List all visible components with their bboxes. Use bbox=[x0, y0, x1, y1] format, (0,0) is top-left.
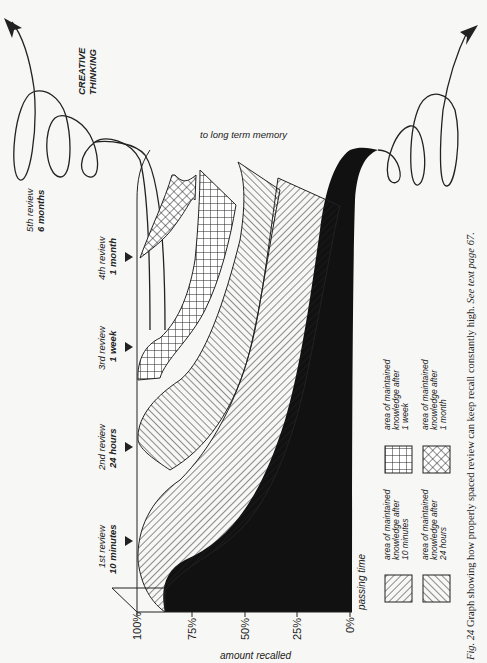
review-5-line2: 6 months bbox=[35, 190, 46, 232]
review-2-line2: 24 hours bbox=[107, 428, 118, 469]
creative-label-line2: THINKING bbox=[87, 48, 98, 95]
triangle-marker-icon bbox=[125, 442, 133, 452]
legend-10m-line3: 10 minutes bbox=[400, 518, 410, 560]
review-3-line1: 3rd review bbox=[96, 325, 107, 370]
triangle-marker-icon bbox=[125, 252, 133, 262]
spaced-review-diagram: 100% 75% 50% 25% 0% amount recalled pass… bbox=[0, 0, 487, 663]
review-1-line2: 10 minutes bbox=[107, 524, 118, 574]
caption-ref: See text page 67. bbox=[465, 232, 476, 303]
caption-label: Fig. 24 bbox=[465, 629, 476, 661]
tick-label-0: 0% bbox=[344, 617, 356, 633]
tick-label-25: 25% bbox=[291, 618, 303, 640]
tick-label-100: 100% bbox=[131, 612, 143, 640]
review-1-line1: 1st review bbox=[96, 524, 107, 568]
review-3-line2: 1 week bbox=[107, 330, 118, 362]
long-term-memory-spiral bbox=[378, 30, 468, 186]
area-1-month bbox=[140, 175, 196, 258]
review-markers bbox=[125, 252, 133, 546]
legend-swatch-1-week bbox=[385, 446, 412, 473]
legend-24h-line3: 24 hours bbox=[438, 526, 448, 561]
tick-label-50: 50% bbox=[239, 618, 251, 640]
passing-time-label: passing time bbox=[356, 553, 367, 611]
long-term-memory-label: to long term memory bbox=[200, 129, 288, 140]
figure-caption: Fig. 24 Graph showing how properly space… bbox=[465, 232, 476, 661]
review-4-line1: 4th review bbox=[96, 236, 107, 280]
figure-page: 100% 75% 50% 25% 0% amount recalled pass… bbox=[0, 0, 487, 663]
legend-swatch-1-month bbox=[423, 446, 450, 473]
amount-recalled-label: amount recalled bbox=[220, 650, 292, 661]
review-5-line1: 5th review bbox=[24, 188, 35, 232]
creative-label-line1: CREATIVE bbox=[76, 47, 87, 95]
triangle-marker-icon bbox=[125, 536, 133, 546]
review-2-line1: 2nd review bbox=[96, 423, 107, 471]
triangle-marker-icon bbox=[125, 342, 133, 352]
tick-marks bbox=[137, 612, 350, 617]
review-4-line2: 1 month bbox=[107, 238, 118, 275]
legend-swatch-10-minutes bbox=[385, 575, 412, 602]
tick-label-75: 75% bbox=[186, 618, 198, 640]
legend-1w-line3: 1 week bbox=[400, 402, 410, 430]
legend-1mo-line3: 1 month bbox=[438, 399, 448, 430]
legend: area of maintained knowledge after 10 mi… bbox=[382, 359, 450, 602]
legend-swatch-24-hours bbox=[423, 575, 450, 602]
caption-text: Graph showing how properly spaced review… bbox=[465, 306, 476, 627]
